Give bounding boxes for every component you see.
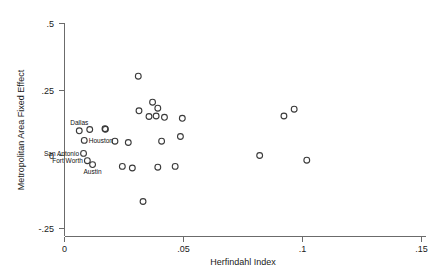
plot-canvas: .5 .25 0 -.25 0 .05 .1 .15 Herfindahl In… (0, 0, 432, 275)
data-point (155, 105, 161, 111)
data-point-label: Dallas (70, 119, 89, 126)
data-point (81, 151, 87, 157)
x-tick-label: 0 (62, 244, 67, 254)
x-tick-label: .1 (299, 244, 307, 254)
scatter-plot-figure: .5 .25 0 -.25 0 .05 .1 .15 Herfindahl In… (0, 0, 432, 275)
data-point (87, 127, 93, 133)
y-axis-ticks: .5 .25 0 -.25 (38, 19, 64, 234)
data-point-label: San Antonio (44, 150, 79, 157)
data-point (146, 114, 152, 120)
data-point (76, 128, 82, 134)
x-axis-title: Herfindahl Index (210, 257, 276, 267)
data-point (281, 113, 287, 119)
x-tick-label: .05 (177, 244, 190, 254)
data-point (136, 108, 142, 114)
data-point (155, 164, 161, 170)
data-point (150, 99, 156, 105)
data-point (125, 140, 131, 146)
x-tick-label: .15 (415, 244, 428, 254)
data-point (257, 153, 263, 159)
y-axis-title: Metropolitan Area Fixed Effect (16, 69, 26, 190)
x-axis-ticks: 0 .05 .1 .15 (62, 237, 428, 255)
data-point (135, 73, 141, 79)
data-point (304, 157, 310, 163)
data-point (129, 165, 135, 171)
data-point (179, 115, 185, 121)
data-point-label: Houston (89, 137, 114, 144)
data-point-label: Austin (84, 168, 102, 175)
data-point (162, 114, 168, 120)
data-point (159, 138, 165, 144)
data-point (140, 199, 146, 205)
y-tick-label: -.25 (38, 224, 54, 234)
data-point (291, 106, 297, 112)
data-point (153, 113, 159, 119)
y-tick-label: .25 (41, 86, 54, 96)
y-tick-label: .5 (46, 19, 54, 29)
data-point (178, 134, 184, 140)
data-point-label: Fort Worth (52, 157, 83, 164)
data-point (81, 138, 87, 144)
data-point (90, 162, 96, 168)
data-point (119, 164, 125, 170)
data-point (84, 158, 90, 164)
data-point (172, 164, 178, 170)
